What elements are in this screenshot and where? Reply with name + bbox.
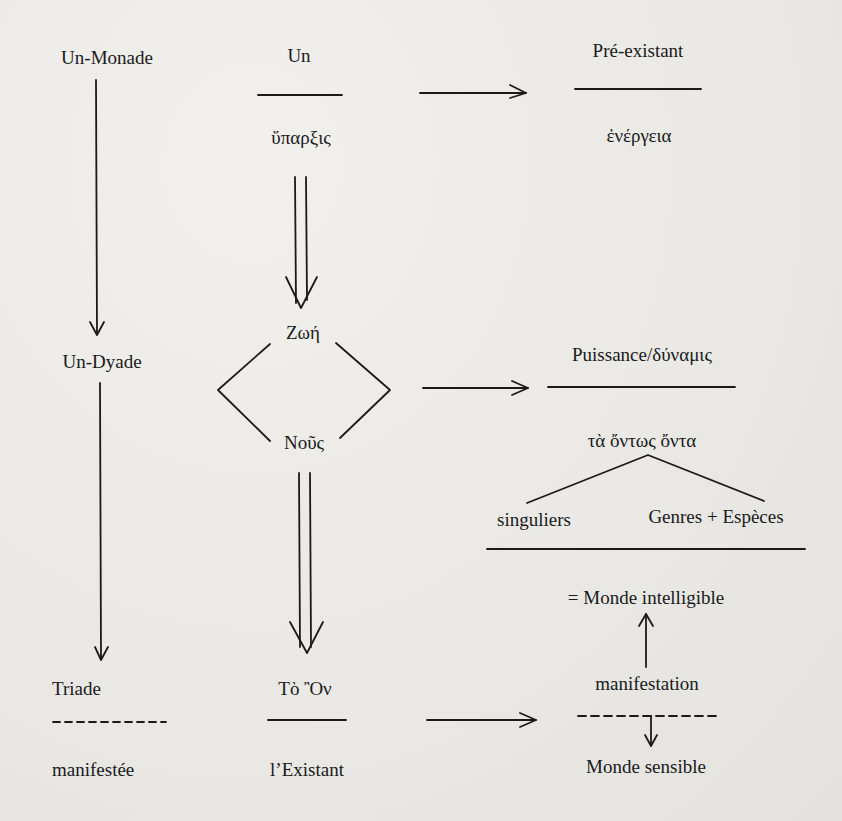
- label-triade: Triade: [52, 679, 101, 698]
- arrow-manifestation-to-intelligible: [639, 614, 653, 667]
- double-arrow-nous-to-on: [299, 473, 311, 647]
- arrow-manifestation-to-sensible: [644, 716, 657, 746]
- label-existant: l’Existant: [270, 760, 344, 779]
- label-singuliers: singuliers: [497, 510, 571, 529]
- label-puissance-dynamis: Puissance/δύναμις: [572, 345, 712, 364]
- label-un-dyade: Un-Dyade: [62, 352, 141, 371]
- ontos-onta-tree-branches: [527, 455, 764, 503]
- label-manifestation: manifestation: [595, 674, 698, 693]
- arrow-monade-to-dyade: [90, 80, 104, 335]
- label-zoe: Ζωή: [286, 323, 320, 342]
- label-genres-especes: Genres + Espèces: [648, 507, 783, 526]
- diagram-lines: [0, 0, 842, 821]
- label-un-monade: Un-Monade: [61, 48, 153, 67]
- label-un: Un: [287, 46, 310, 65]
- arrow-on-to-manifestation: [427, 713, 536, 727]
- label-hyparxis: ὕπαρξις: [271, 128, 331, 147]
- double-arrow-un-to-zoe: [286, 177, 317, 308]
- label-monde-intelligible: = Monde intelligible: [568, 588, 724, 607]
- arrow-un-to-preexistant: [420, 85, 526, 98]
- label-to-on: Τὸ Ὂν: [278, 679, 331, 698]
- diamond-zoe-nous: [218, 343, 390, 441]
- double-arrowhead-on: [290, 622, 323, 653]
- label-energeia: ἐνέργεια: [606, 126, 671, 145]
- label-nous: Νοῦς: [284, 433, 324, 452]
- arrow-dyade-to-triade: [95, 383, 108, 660]
- label-manifestee: manifestée: [52, 760, 134, 779]
- label-monde-sensible: Monde sensible: [586, 757, 706, 776]
- label-ta-ontos-onta: τὰ ὄντως ὄντα: [588, 431, 697, 450]
- arrow-dyade-to-puissance: [423, 381, 528, 395]
- label-pre-existant: Pré-existant: [593, 41, 684, 60]
